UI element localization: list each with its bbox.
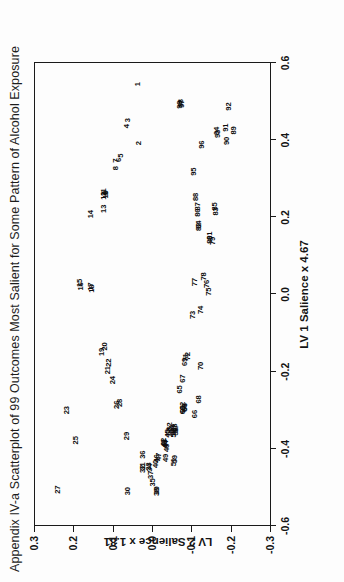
figure-container: Appendix IV-a Scatterplot of 99 Outcomes…: [0, 0, 344, 582]
x-axis-title: LV 1 Salience x 4.67: [298, 63, 310, 526]
y-axis-title: LV 2 Salience x 1.81: [40, 536, 276, 548]
scatter-point-label: 72: [184, 352, 192, 360]
scatter-point-label: 4: [123, 124, 131, 128]
scatter-point-label: 95: [190, 168, 198, 176]
scatter-point-label: 16: [77, 282, 85, 290]
scatter-point-label: 36: [139, 451, 147, 459]
scatter-point-label: 64: [182, 404, 190, 412]
scatter-point-label: 99: [176, 101, 184, 109]
scatter-point-label: 58: [171, 424, 179, 432]
x-tick-mark: [270, 139, 276, 140]
y-tick-label: 0.3: [28, 536, 40, 551]
scatter-point-label: 65: [176, 385, 184, 393]
x-tick-mark: [270, 216, 276, 217]
scatter-point-label: 21: [104, 366, 112, 374]
x-tick-label: -0.6: [279, 517, 291, 535]
scatter-point-label: 18: [88, 285, 96, 293]
scatter-point-label: 67: [179, 375, 187, 383]
scatter-point-label: 37: [147, 471, 155, 479]
y-tick-mark: [152, 526, 153, 532]
scatter-point-label: 68: [195, 395, 203, 403]
scatter-point-label: 8: [112, 166, 120, 170]
scatter-point-label: 29: [123, 432, 131, 440]
scatter-point-label: 78: [200, 272, 208, 280]
scatter-point-label: 30: [125, 487, 133, 495]
scatter-point-label: 59: [171, 455, 179, 463]
x-tick-mark: [270, 448, 276, 449]
x-tick-label: 0.2: [279, 210, 291, 225]
x-tick-mark: [270, 294, 276, 295]
scatter-point-label: 85: [211, 203, 219, 211]
x-tick-label: -0.2: [279, 363, 291, 381]
scatter-point-label: 24: [109, 376, 117, 384]
y-tick-mark: [73, 526, 74, 532]
scatter-point-label: 25: [73, 436, 81, 444]
x-tick-label: 0.6: [279, 56, 291, 71]
scatter-point-label: 94: [213, 127, 221, 135]
scatter-point-label: 91: [222, 124, 230, 132]
scatter-point-label: 96: [199, 141, 207, 149]
scatter-point-label: 66: [191, 410, 199, 418]
scatter-point-label: 7: [112, 159, 120, 163]
scatter-point-label: 12: [100, 192, 108, 200]
scatter-point-label: 35: [149, 478, 157, 486]
scatter-point-label: 90: [223, 137, 231, 145]
y-tick-mark: [231, 526, 232, 532]
scatter-point-label: 27: [55, 486, 63, 494]
y-tick-mark: [270, 526, 271, 532]
plot-frame-right: [34, 62, 270, 63]
y-tick-mark: [113, 526, 114, 532]
scatter-point-label: 2: [136, 141, 144, 145]
scatter-point-label: 28: [116, 399, 124, 407]
x-tick-label: -0.4: [279, 440, 291, 458]
scatter-point-label: 88: [193, 193, 201, 201]
scatter-point-label: 81: [206, 232, 214, 240]
y-tick-mark: [34, 526, 35, 532]
figure-title: Appendix IV-a Scatterplot of 99 Outcomes…: [8, 46, 22, 572]
scatter-point-label: 77: [191, 278, 199, 286]
scatter-point-label: 92: [226, 103, 234, 111]
scatter-point-label: 84: [195, 221, 203, 229]
scatter-point-label: 3: [124, 118, 132, 122]
scatter-point-label: 14: [87, 210, 95, 218]
x-tick-label: 0.0: [279, 287, 291, 302]
x-axis-line: [270, 63, 271, 526]
scatter-point-label: 74: [197, 306, 205, 314]
scatter-point-label: 87: [194, 203, 202, 211]
x-tick-mark: [270, 62, 276, 63]
scatter-point-label: 1: [134, 82, 142, 86]
scatter-point-label: 48: [163, 444, 171, 452]
scatter-point-label: 70: [197, 362, 205, 370]
plot-frame-top: [34, 63, 35, 526]
scatter-point-label: 13: [100, 205, 108, 213]
x-tick-label: 0.4: [279, 133, 291, 148]
scatter-point-label: 22: [105, 359, 113, 367]
scatter-point-label: 75: [205, 288, 213, 296]
y-tick-mark: [191, 526, 192, 532]
scatter-point-label: 20: [101, 343, 109, 351]
rotated-page-canvas: Appendix IV-a Scatterplot of 99 Outcomes…: [0, 0, 344, 582]
scatter-point-label: 76: [203, 280, 211, 288]
x-tick-mark: [270, 371, 276, 372]
scatter-point-label: 49: [162, 454, 170, 462]
scatter-point-label: 39: [153, 486, 161, 494]
scatter-point-label: 23: [64, 406, 72, 414]
scatter-point-label: 89: [230, 127, 238, 135]
